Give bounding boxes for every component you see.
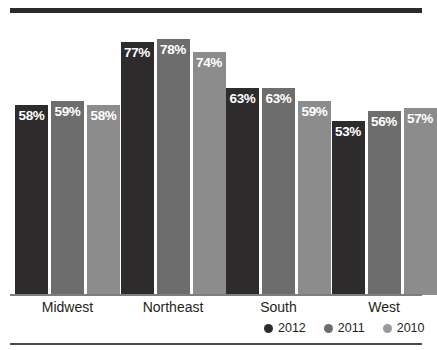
bar-column[interactable]: 57% bbox=[404, 108, 437, 295]
bar-column[interactable]: 77% bbox=[121, 42, 154, 295]
top-divider-rule bbox=[10, 8, 422, 13]
bar-group: 58%59%58% bbox=[15, 16, 120, 295]
plot-area: 58%59%58%77%78%74%63%63%59%53%56%57% bbox=[14, 16, 420, 295]
bar[interactable] bbox=[262, 88, 295, 295]
bar-value-label: 57% bbox=[404, 111, 437, 126]
bar[interactable] bbox=[404, 108, 437, 295]
bar[interactable] bbox=[193, 52, 226, 295]
legend-item-2010[interactable]: 2010 bbox=[383, 322, 425, 334]
bar-value-label: 53% bbox=[332, 124, 365, 139]
category-label-south: South bbox=[226, 299, 331, 315]
category-label-northeast: Northeast bbox=[121, 299, 226, 315]
bar[interactable] bbox=[15, 105, 48, 295]
bar-value-label: 58% bbox=[15, 108, 48, 123]
bar-value-label: 63% bbox=[226, 91, 259, 106]
legend-label: 2012 bbox=[278, 322, 306, 334]
bar[interactable] bbox=[121, 42, 154, 295]
chart-legend: 201220112010 bbox=[264, 322, 425, 334]
bar-group: 77%78%74% bbox=[121, 16, 226, 295]
legend-swatch-icon bbox=[264, 324, 273, 333]
bar-column[interactable]: 56% bbox=[368, 111, 401, 295]
bottom-divider-rule bbox=[10, 343, 422, 345]
bar-column[interactable]: 78% bbox=[157, 39, 190, 295]
axis-baseline bbox=[10, 294, 422, 296]
bar-group: 63%63%59% bbox=[226, 16, 331, 295]
bar-column[interactable]: 58% bbox=[87, 105, 120, 295]
category-label-west: West bbox=[332, 299, 437, 315]
bar-column[interactable]: 53% bbox=[332, 121, 365, 295]
legend-swatch-icon bbox=[324, 324, 333, 333]
bar[interactable] bbox=[332, 121, 365, 295]
bar-column[interactable]: 63% bbox=[262, 88, 295, 295]
legend-label: 2011 bbox=[338, 322, 365, 334]
bar[interactable] bbox=[368, 111, 401, 295]
bar-column[interactable]: 59% bbox=[298, 101, 331, 295]
bar[interactable] bbox=[51, 101, 84, 295]
bar-column[interactable]: 59% bbox=[51, 101, 84, 295]
bar[interactable] bbox=[226, 88, 259, 295]
bar-value-label: 59% bbox=[298, 104, 331, 119]
bar-group: 53%56%57% bbox=[332, 16, 437, 295]
category-label-midwest: Midwest bbox=[15, 299, 120, 315]
bar-column[interactable]: 63% bbox=[226, 88, 259, 295]
legend-item-2011[interactable]: 2011 bbox=[324, 322, 365, 334]
bar[interactable] bbox=[87, 105, 120, 295]
bar-value-label: 59% bbox=[51, 104, 84, 119]
bar-value-label: 63% bbox=[262, 91, 295, 106]
bar-value-label: 77% bbox=[121, 45, 154, 60]
bar-value-label: 58% bbox=[87, 108, 120, 123]
bar-value-label: 78% bbox=[157, 42, 190, 57]
bar-column[interactable]: 58% bbox=[15, 105, 48, 295]
legend-item-2012[interactable]: 2012 bbox=[264, 322, 306, 334]
bar[interactable] bbox=[157, 39, 190, 295]
bar-value-label: 74% bbox=[193, 55, 226, 70]
legend-label: 2010 bbox=[397, 322, 425, 334]
bar[interactable] bbox=[298, 101, 331, 295]
bar-column[interactable]: 74% bbox=[193, 52, 226, 295]
legend-swatch-icon bbox=[383, 324, 392, 333]
bar-value-label: 56% bbox=[368, 114, 401, 129]
